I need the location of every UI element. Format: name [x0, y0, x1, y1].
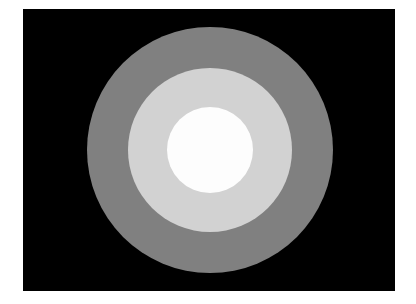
black-frame [23, 9, 395, 291]
inner-circle [167, 107, 253, 193]
canvas [0, 0, 416, 304]
